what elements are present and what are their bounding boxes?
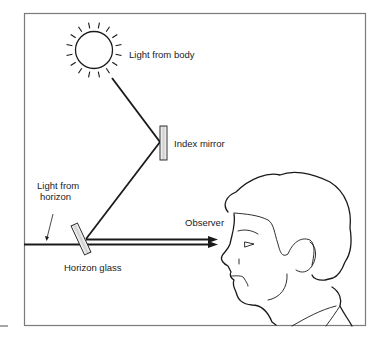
sun-ray: [89, 23, 90, 29]
sun-ray: [98, 23, 99, 29]
label-index-mirror: Index mirror: [174, 138, 225, 149]
sun-ray: [67, 45, 73, 46]
sun-ray: [116, 54, 122, 55]
arrowhead-lower: [208, 241, 218, 248]
ray-body-to-index-mirror: [112, 78, 160, 142]
horizon-label-pointer: [47, 214, 53, 238]
index-mirror: [160, 126, 167, 160]
label-observer: Observer: [185, 217, 224, 228]
sun-ray: [112, 62, 117, 65]
label-light-from-horizon-line1: Light from: [37, 180, 79, 191]
sun-ray: [116, 45, 122, 46]
sun-icon: [67, 23, 122, 78]
sun-ray: [78, 27, 81, 32]
sun-ray: [71, 62, 76, 65]
horizon-label-pointer-tip: [45, 236, 49, 241]
sun-ray: [71, 34, 76, 37]
sun-ray: [98, 72, 99, 78]
sun-ray: [106, 68, 109, 73]
label-light-from-body: Light from body: [129, 49, 194, 60]
label-light-from-horizon-line2: horizon: [40, 191, 71, 202]
observer-head: [221, 172, 352, 326]
sun-ray: [78, 68, 81, 73]
label-horizon-glass: Horizon glass: [64, 262, 122, 273]
ray-index-mirror-to-horizon-glass: [86, 142, 160, 239]
sun-ray: [112, 34, 117, 37]
sun-ray: [89, 72, 90, 78]
sun-ray: [67, 54, 73, 55]
sun-ray: [106, 27, 109, 32]
